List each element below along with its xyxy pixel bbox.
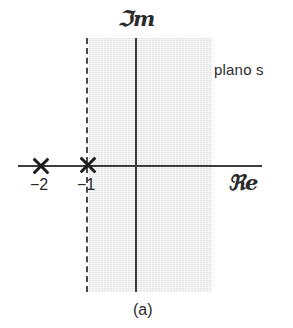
plane-label: plano s [214, 62, 264, 77]
pole-marker-x-icon [31, 156, 51, 176]
real-axis-label: ℜe [228, 172, 258, 193]
pole-label-minus-two: −2 [30, 177, 48, 193]
figure-caption: (a) [133, 302, 153, 318]
pole-marker-x-icon [78, 155, 98, 175]
imaginary-axis-label: ℑm [118, 8, 155, 29]
pole-label-minus-one: −1 [77, 177, 95, 193]
real-axis-line [18, 165, 262, 167]
imaginary-axis-line [135, 38, 137, 292]
s-plane-figure: ℑm ℜe plano s −2 −1 (a) [0, 0, 293, 328]
